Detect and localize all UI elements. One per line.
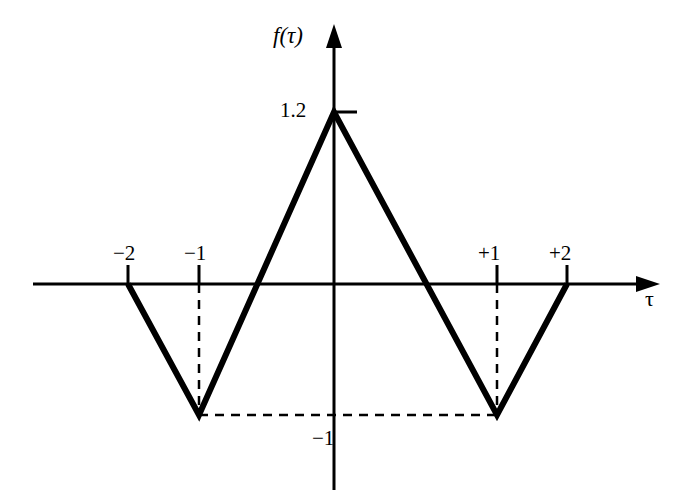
y-axis-arrowhead	[326, 24, 342, 48]
x-axis-label: τ	[645, 288, 654, 310]
y-tick-label-1point2: 1.2	[280, 100, 306, 121]
x-tick-label-plus-2: +2	[549, 243, 571, 264]
y-axis-label: f(τ)	[273, 24, 303, 47]
x-tick-label-minus-2: −2	[113, 243, 135, 264]
figure-canvas: f(τ) τ 1.2 −1 −2 −1 +1 +2	[0, 0, 674, 504]
x-tick-label-plus-1: +1	[478, 243, 500, 264]
x-axis-ticks	[128, 265, 567, 284]
plot-svg	[0, 0, 674, 504]
y-tick-label-minus-1: −1	[312, 428, 334, 449]
guide-lines	[199, 284, 497, 415]
x-tick-label-minus-1: −1	[184, 243, 206, 264]
y-axis	[326, 24, 342, 490]
